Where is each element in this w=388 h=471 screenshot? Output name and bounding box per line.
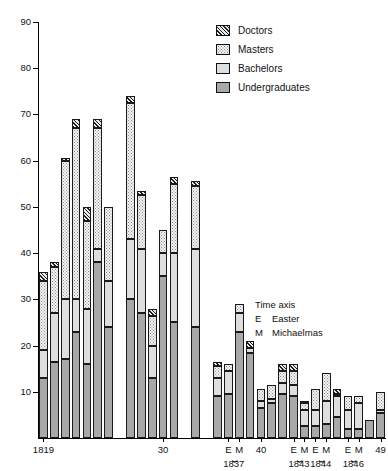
easter-label: Easter: [272, 312, 299, 326]
bar: [159, 230, 168, 438]
bar-segment-bachelors: [278, 383, 287, 395]
legend-item-masters[interactable]: Masters: [216, 41, 310, 57]
year-group-label: 1844: [305, 459, 337, 469]
bar-segment-bachelors: [159, 253, 168, 276]
bar-segment-masters: [257, 389, 266, 401]
bar-segment-masters: [300, 403, 309, 410]
legend-swatch-masters: [216, 44, 230, 55]
bar-segment-undergraduates: [235, 332, 244, 438]
bar-segment-bachelors: [93, 249, 102, 263]
bar-segment-doctors: [278, 364, 287, 371]
bar-segment-bachelors: [83, 309, 92, 364]
bar-segment-undergraduates: [72, 332, 81, 438]
bar: [322, 373, 331, 438]
y-axis-tick-label: 20: [9, 341, 31, 351]
bar-segment-bachelors: [61, 299, 70, 359]
plot-area: [38, 22, 386, 438]
bar-segment-undergraduates: [311, 426, 320, 438]
bar-segment-doctors: [50, 262, 59, 267]
bar-segment-doctors: [72, 119, 81, 128]
bar-segment-undergraduates: [344, 429, 353, 438]
bar-segment-masters: [137, 195, 146, 248]
y-axis-tick-label: 50: [9, 202, 31, 212]
bar: [104, 207, 113, 438]
legend-swatch-doctors: [216, 25, 230, 36]
bar: [246, 341, 255, 438]
x-axis-tick: [163, 438, 164, 442]
x-axis-tick: [294, 438, 295, 442]
y-axis-tick: [33, 68, 38, 69]
bar: [61, 158, 70, 438]
bar-segment-undergraduates: [191, 327, 200, 438]
michaelmas-key: M: [255, 326, 272, 340]
bar: [148, 309, 157, 438]
y-axis-labels: 102030405060708090: [0, 0, 31, 471]
bar: [235, 304, 244, 438]
bar-segment-doctors: [289, 364, 298, 371]
x-axis-tick-label: 49: [367, 444, 388, 455]
bar: [39, 272, 48, 438]
bar: [344, 396, 353, 438]
x-axis-line: [38, 438, 386, 439]
legend-item-bachelors[interactable]: Bachelors: [216, 60, 310, 76]
legend-item-doctors[interactable]: Doctors: [216, 22, 310, 38]
bar-segment-undergraduates: [50, 362, 59, 438]
bar-segment-bachelors: [148, 346, 157, 378]
bar: [289, 364, 298, 438]
bar: [170, 177, 179, 438]
legend-label: Undergraduates: [238, 82, 310, 93]
bar-segment-masters: [322, 373, 331, 401]
bar-segment-masters: [278, 371, 287, 383]
bar-segment-doctors: [83, 207, 92, 221]
easter-key: E: [255, 312, 272, 326]
bar-segment-doctors: [246, 341, 255, 348]
bar-segment-undergraduates: [289, 396, 298, 438]
bar: [278, 364, 287, 438]
legend: DoctorsMastersBachelorsUndergraduates: [216, 22, 310, 98]
x-axis-tick: [381, 438, 382, 442]
bar-segment-masters: [354, 396, 363, 403]
y-axis-tick-label: 30: [9, 294, 31, 304]
bar-segment-bachelors: [289, 385, 298, 397]
bar-segment-doctors: [148, 309, 157, 316]
y-axis-tick: [33, 161, 38, 162]
bar-segment-undergraduates: [246, 353, 255, 439]
bar-segment-masters: [376, 392, 385, 410]
x-axis-tick: [261, 438, 262, 442]
bar-segment-bachelors: [235, 313, 244, 331]
x-axis-tick: [315, 438, 316, 442]
bar-segment-undergraduates: [267, 403, 276, 438]
bar-segment-doctors: [300, 401, 309, 403]
y-axis-tick: [33, 392, 38, 393]
bar: [72, 119, 81, 438]
bar-segment-masters: [235, 304, 244, 313]
bar-segment-undergraduates: [354, 429, 363, 438]
y-axis-tick: [33, 299, 38, 300]
bar-segment-bachelors: [376, 410, 385, 412]
x-axis-labels: 181930EM40EMEMEM49⏟1837⏟1843⏟1844⏟1846: [0, 440, 388, 471]
y-axis-tick: [33, 114, 38, 115]
bar-segment-bachelors: [224, 371, 233, 394]
bar-segment-undergraduates: [148, 378, 157, 438]
x-axis-tick: [326, 438, 327, 442]
bar-segment-undergraduates: [376, 413, 385, 438]
bar: [137, 191, 146, 438]
bar: [267, 385, 276, 438]
bar-segment-masters: [191, 186, 200, 248]
bar: [354, 396, 363, 438]
year-group-label: 1846: [337, 459, 369, 469]
y-axis-tick-label: 10: [9, 387, 31, 397]
bar-segment-masters: [39, 281, 48, 350]
bar-segment-undergraduates: [170, 322, 179, 438]
bar-segment-masters: [267, 385, 276, 399]
x-axis-tick-label: 30: [149, 444, 177, 455]
time-axis-note: Time axis EEaster MMichaelmas: [255, 298, 323, 340]
bar: [83, 207, 92, 438]
bar-segment-bachelors: [213, 378, 222, 396]
x-axis-tick: [228, 438, 229, 442]
bar: [126, 96, 135, 438]
legend-item-undergraduates[interactable]: Undergraduates: [216, 79, 310, 95]
bar-segment-masters: [213, 366, 222, 378]
bar-segment-doctors: [39, 272, 48, 281]
bar-segment-masters: [61, 161, 70, 300]
